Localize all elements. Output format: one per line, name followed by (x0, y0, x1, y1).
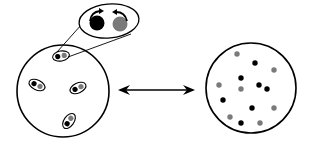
free-light-dot (271, 105, 276, 110)
pair-envelope (27, 77, 47, 93)
dot-pair (27, 77, 47, 93)
callout-magnified-pair (57, 1, 140, 57)
free-dark-dot (249, 105, 254, 110)
free-light-dot (234, 51, 239, 56)
free-light-dot (257, 120, 262, 125)
free-dark-dot (238, 75, 243, 80)
magnified-dark-dot (90, 16, 105, 31)
left-vesicle (17, 45, 109, 137)
right-vesicle-outline (206, 43, 296, 133)
diagram-canvas (0, 0, 313, 145)
free-light-dot (238, 86, 243, 91)
callout-ellipse (78, 1, 141, 40)
free-dark-dot (264, 86, 269, 91)
pair-envelope (60, 111, 78, 131)
free-dark-dot (252, 60, 257, 65)
free-dark-dot (238, 120, 243, 125)
dot-pair (60, 111, 78, 131)
magnified-light-dot (113, 17, 128, 32)
free-light-dot (216, 82, 221, 87)
pair-envelope (68, 80, 88, 96)
free-light-dot (227, 114, 232, 119)
pair-envelope (52, 50, 70, 63)
right-vesicle (206, 43, 296, 133)
free-dark-dot (256, 82, 261, 87)
free-light-dot (271, 67, 276, 72)
vesicle-diagram (0, 0, 313, 145)
dot-pair (52, 50, 70, 63)
dot-pair (68, 80, 88, 96)
free-dark-dot (220, 97, 225, 102)
